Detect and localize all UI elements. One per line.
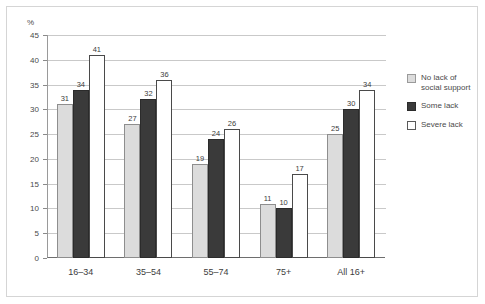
bar-value-label: 24 xyxy=(212,129,220,138)
y-axis-tick-label: 0 xyxy=(19,254,39,263)
legend-item[interactable]: Severe lack xyxy=(407,120,479,130)
bar-value-label: 19 xyxy=(196,154,204,163)
plot-wrapper: % 051015202530354045 31344116–3427323635… xyxy=(0,0,485,304)
bar-value-label: 32 xyxy=(144,89,152,98)
bar[interactable]: 25 xyxy=(327,134,343,258)
legend-swatch-icon xyxy=(407,121,416,130)
bar-group: 11101775+ xyxy=(250,35,318,258)
bar[interactable]: 31 xyxy=(57,104,73,258)
bar[interactable]: 34 xyxy=(73,90,89,258)
legend-swatch-icon xyxy=(407,74,416,83)
x-axis-category-label: 55–74 xyxy=(182,267,250,277)
chart-figure: % 051015202530354045 31344116–3427323635… xyxy=(0,0,485,304)
bar-value-label: 34 xyxy=(77,80,85,89)
bar-value-label: 26 xyxy=(228,119,236,128)
x-axis-category-label: All 16+ xyxy=(317,267,385,277)
bar[interactable]: 27 xyxy=(124,124,140,258)
bar-group: 253034All 16+ xyxy=(317,35,385,258)
y-axis-tick-label: 30 xyxy=(19,105,39,114)
bar[interactable]: 26 xyxy=(224,129,240,258)
legend-item[interactable]: Some lack xyxy=(407,101,479,111)
bar-value-label: 27 xyxy=(128,114,136,123)
legend-label: Some lack xyxy=(421,101,458,111)
bar[interactable]: 30 xyxy=(343,109,359,258)
y-axis-tick-label: 5 xyxy=(19,229,39,238)
legend-label: No lack of social support xyxy=(421,73,479,92)
bar-value-label: 10 xyxy=(279,198,287,207)
x-axis-category-label: 75+ xyxy=(250,267,318,277)
legend-swatch-icon xyxy=(407,102,416,111)
bar[interactable]: 34 xyxy=(359,90,375,258)
bar[interactable]: 36 xyxy=(156,80,172,258)
y-axis-tick-label: 15 xyxy=(19,180,39,189)
bar-group: 19242655–74 xyxy=(182,35,250,258)
bar-value-label: 31 xyxy=(61,94,69,103)
y-axis-tick-mark xyxy=(43,258,47,259)
x-axis-category-label: 16–34 xyxy=(47,267,115,277)
y-axis-tick-label: 20 xyxy=(19,155,39,164)
legend-label: Severe lack xyxy=(421,120,463,130)
bar[interactable]: 24 xyxy=(208,139,224,258)
y-axis-tick-label: 45 xyxy=(19,31,39,40)
y-axis-tick-label: 25 xyxy=(19,130,39,139)
x-axis-category-label: 35–54 xyxy=(115,267,183,277)
bar[interactable]: 10 xyxy=(276,208,292,258)
bar[interactable]: 41 xyxy=(89,55,105,258)
bar[interactable]: 32 xyxy=(140,99,156,258)
legend-item[interactable]: No lack of social support xyxy=(407,73,479,92)
bar-value-label: 34 xyxy=(363,80,371,89)
y-axis-tick-label: 10 xyxy=(19,204,39,213)
bar-value-label: 36 xyxy=(160,70,168,79)
bar-value-label: 17 xyxy=(295,164,303,173)
bar-group: 31344116–34 xyxy=(47,35,115,258)
y-axis-tick-label: 40 xyxy=(19,56,39,65)
bar-value-label: 25 xyxy=(331,124,339,133)
chart-legend: No lack of social supportSome lackSevere… xyxy=(407,73,479,139)
y-axis-tick-label: 35 xyxy=(19,81,39,90)
bar-value-label: 41 xyxy=(93,45,101,54)
bar[interactable]: 19 xyxy=(192,164,208,258)
bar[interactable]: 17 xyxy=(292,174,308,258)
bar-value-label: 11 xyxy=(264,194,272,203)
y-axis-unit-label: % xyxy=(27,18,34,27)
bar[interactable]: 11 xyxy=(260,204,276,259)
bar-group: 27323635–54 xyxy=(115,35,183,258)
bar-value-label: 30 xyxy=(347,99,355,108)
bar-groups: 31344116–3427323635–5419242655–741110177… xyxy=(47,35,385,258)
